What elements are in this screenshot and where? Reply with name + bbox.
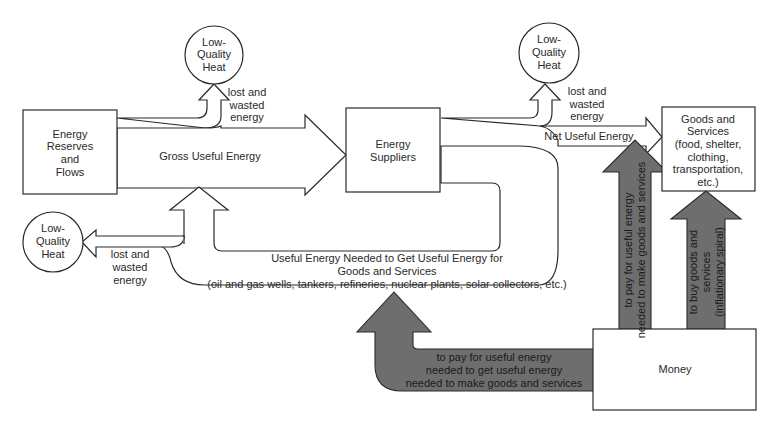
svg-text:lost and: lost and [228,86,267,98]
svg-text:Heat: Heat [202,61,225,73]
svg-text:Reserves: Reserves [47,140,94,152]
svg-text:wasted: wasted [112,261,148,273]
svg-text:clothing,: clothing, [688,151,729,163]
svg-text:Heat: Heat [537,59,560,71]
svg-text:Flows: Flows [56,166,85,178]
svg-text:energy: energy [230,111,264,123]
svg-text:needed to get useful energy: needed to get useful energy [426,364,563,376]
svg-text:to pay for useful energy: to pay for useful energy [622,192,634,307]
svg-text:transportation,: transportation, [673,163,743,175]
svg-text:Money: Money [658,363,692,375]
energy-suppliers-node: Energy Suppliers [346,108,440,192]
svg-text:(inflationary spiral): (inflationary spiral) [713,227,725,317]
lost-wasted-label-top-right: lost and wasted energy [568,85,607,122]
svg-text:Goods and: Goods and [681,113,735,125]
svg-text:and: and [61,153,79,165]
low-quality-heat-node-top-left: Low- Quality Heat [185,26,243,84]
gross-useful-energy-label: Gross Useful Energy [159,150,261,162]
svg-text:Heat: Heat [41,248,64,260]
svg-text:(oil and gas wells, tankers, r: (oil and gas wells, tankers, refineries,… [207,278,567,290]
energy-reserves-node: Energy Reserves and Flows [23,110,117,194]
svg-text:to buy goods and: to buy goods and [687,230,699,314]
svg-text:(food, shelter,: (food, shelter, [675,138,742,150]
svg-text:to pay for useful energy: to pay for useful energy [437,351,552,363]
money-node: Money [593,329,756,410]
svg-text:Low-: Low- [202,36,226,48]
svg-text:Quality: Quality [36,235,71,247]
svg-text:wasted: wasted [569,98,605,110]
lost-wasted-label-bottom-left: lost and wasted energy [111,248,150,286]
svg-text:wasted: wasted [229,99,265,111]
svg-text:Energy: Energy [53,128,88,140]
svg-text:Low-: Low- [537,33,561,45]
svg-text:lost and: lost and [111,248,150,260]
net-useful-energy-label: Net Useful Energy [544,130,634,142]
svg-text:Energy: Energy [376,138,411,150]
svg-text:energy: energy [113,274,147,286]
svg-text:energy: energy [570,110,604,122]
svg-text:etc.): etc.) [697,176,718,188]
lost-energy-arrow-top-right [441,84,560,126]
svg-text:Low-: Low- [41,222,65,234]
lost-wasted-label-top-left: lost and wasted energy [228,86,267,123]
low-quality-heat-node-bottom-left: Low- Quality Heat [23,212,83,272]
lost-energy-arrow-top-left [117,84,229,128]
svg-text:Quality: Quality [197,48,232,60]
net-energy-money-flow-diagram: Energy Reserves and Flows Energy Supplie… [0,0,780,430]
low-quality-heat-node-top-right: Low- Quality Heat [519,23,579,83]
svg-text:services: services [700,251,712,292]
goods-and-services-node: Goods and Services (food, shelter, cloth… [662,107,755,191]
svg-text:Services: Services [687,125,730,137]
svg-text:Suppliers: Suppliers [370,151,416,163]
svg-text:Useful Energy Needed to Get Us: Useful Energy Needed to Get Useful Energ… [271,252,503,264]
svg-text:needed to make goods and serv: needed to make goods and services [406,377,583,389]
svg-text:needed to make goods and servi: needed to make goods and services [635,161,647,338]
svg-text:Goods and Services: Goods and Services [337,265,437,277]
svg-text:lost and: lost and [568,85,607,97]
svg-text:Quality: Quality [532,46,567,58]
